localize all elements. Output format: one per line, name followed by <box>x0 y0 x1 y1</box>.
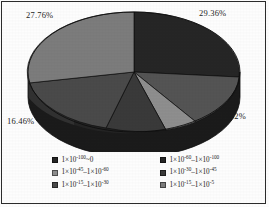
legend-column-right: 1×10-60–1×10-100 1×10-30–1×10-45 1×10-15… <box>160 154 266 192</box>
legend-swatch-icon <box>52 182 58 188</box>
legend-label: 1×10-60–1×10-100 <box>170 157 220 165</box>
legend-label: 1×10-45–1×10-60 <box>62 169 109 177</box>
slice-label-16: 16.46% <box>7 116 34 126</box>
slice-label-6: 6.19% <box>171 133 194 143</box>
slice-label-11: 11.52% <box>219 111 246 121</box>
slice-label-29: 29.36% <box>199 8 226 18</box>
legend-item: 1×10-60–1×10-100 <box>160 154 266 167</box>
pie-slice-27 <box>27 12 134 83</box>
chart-legend: 1×10-100~0 1×10-45–1×10-60 1×10-15–1×10-… <box>52 154 266 202</box>
legend-item: 1×10-15–1×10-5 <box>160 179 266 192</box>
legend-label: 1×10-15–1×10-30 <box>62 182 109 190</box>
legend-swatch-icon <box>160 182 166 188</box>
pie-chart-graphic: 29.36% 11.52% 6.19% 8.71% 16.46% 27.76% <box>0 0 269 152</box>
pie-chart-figure: 29.36% 11.52% 6.19% 8.71% 16.46% 27.76% … <box>0 0 269 207</box>
legend-item: 1×10-15–1×10-30 <box>52 179 157 192</box>
legend-swatch-icon <box>52 157 58 163</box>
pie-slice-29 <box>134 12 239 77</box>
legend-label: 1×10-100~0 <box>62 157 94 165</box>
slice-label-27: 27.76% <box>26 10 53 20</box>
slice-label-8: 8.71% <box>85 137 108 147</box>
legend-item: 1×10-100~0 <box>52 154 157 167</box>
legend-item: 1×10-45–1×10-60 <box>52 167 157 180</box>
legend-swatch-icon <box>160 157 166 163</box>
legend-item: 1×10-30–1×10-45 <box>160 167 266 180</box>
pie-svg <box>0 0 269 152</box>
legend-swatch-icon <box>52 170 58 176</box>
legend-label: 1×10-15–1×10-5 <box>170 182 215 190</box>
legend-label: 1×10-30–1×10-45 <box>170 169 217 177</box>
legend-swatch-icon <box>160 170 166 176</box>
pie-top-face <box>27 12 240 132</box>
legend-column-left: 1×10-100~0 1×10-45–1×10-60 1×10-15–1×10-… <box>52 154 157 192</box>
